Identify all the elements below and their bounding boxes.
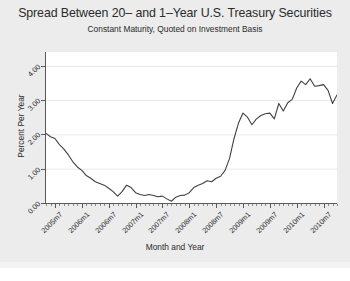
x-tick-minor (221, 204, 222, 206)
x-tick (109, 204, 110, 208)
x-tick-minor (77, 204, 78, 206)
x-tick-minor (252, 204, 253, 206)
x-tick-minor (198, 204, 199, 206)
x-tick-minor (176, 204, 177, 206)
y-tick (41, 169, 46, 170)
figure-shadow (0, 262, 350, 268)
y-axis-line (45, 52, 46, 204)
x-tick-minor (131, 204, 132, 206)
x-tick-minor (194, 204, 195, 206)
x-tick (324, 204, 325, 208)
x-tick-minor (167, 204, 168, 206)
x-tick-minor (59, 204, 60, 206)
x-tick (162, 204, 163, 208)
x-tick-minor (51, 204, 52, 206)
x-tick (55, 204, 56, 208)
x-tick-minor (171, 204, 172, 206)
x-tick-minor (68, 204, 69, 206)
x-tick-minor (234, 204, 235, 206)
x-tick-minor (225, 204, 226, 206)
x-tick-minor (328, 204, 329, 206)
x-tick-minor (230, 204, 231, 206)
data-line (46, 79, 337, 202)
x-tick-minor (46, 204, 47, 206)
x-tick (189, 204, 190, 208)
x-tick-minor (288, 204, 289, 206)
x-tick-minor (265, 204, 266, 206)
x-tick-minor (212, 204, 213, 206)
x-tick-minor (337, 204, 338, 206)
x-tick (136, 204, 137, 208)
x-tick-minor (149, 204, 150, 206)
y-tick-label: 0.00 (8, 199, 42, 233)
x-tick-minor (64, 204, 65, 206)
x-tick-minor (283, 204, 284, 206)
x-tick (216, 204, 217, 208)
x-tick-minor (158, 204, 159, 206)
x-tick (270, 204, 271, 208)
x-tick-minor (315, 204, 316, 206)
x-axis-title: Month and Year (0, 242, 350, 252)
plot-area (46, 52, 337, 203)
x-tick-minor (310, 204, 311, 206)
x-tick-minor (248, 204, 249, 206)
x-tick-minor (301, 204, 302, 206)
x-tick-minor (140, 204, 141, 206)
x-tick-minor (95, 204, 96, 206)
x-tick-minor (319, 204, 320, 206)
x-tick-minor (127, 204, 128, 206)
y-tick (41, 134, 46, 135)
x-tick-minor (91, 204, 92, 206)
x-tick-minor (180, 204, 181, 206)
x-tick-minor (100, 204, 101, 206)
x-tick-minor (73, 204, 74, 206)
x-tick (297, 204, 298, 208)
x-tick-minor (292, 204, 293, 206)
chart-title: Spread Between 20– and 1–Year U.S. Treas… (0, 6, 350, 20)
x-tick-minor (122, 204, 123, 206)
x-tick-minor (306, 204, 307, 206)
chart-figure: Spread Between 20– and 1–Year U.S. Treas… (0, 0, 350, 262)
chart-svg (46, 52, 337, 203)
x-tick-minor (145, 204, 146, 206)
x-tick-minor (104, 204, 105, 206)
x-tick-minor (256, 204, 257, 206)
x-tick-minor (333, 204, 334, 206)
x-tick-minor (274, 204, 275, 206)
x-tick-minor (207, 204, 208, 206)
x-tick-minor (203, 204, 204, 206)
x-tick (243, 204, 244, 208)
x-tick-minor (261, 204, 262, 206)
x-tick-minor (86, 204, 87, 206)
y-tick (41, 66, 46, 67)
x-tick (82, 204, 83, 208)
x-tick-minor (185, 204, 186, 206)
x-tick-minor (113, 204, 114, 206)
x-tick-minor (118, 204, 119, 206)
y-tick (41, 100, 46, 101)
gridlines (46, 66, 337, 203)
y-axis-title: Percent Per Year (16, 81, 26, 171)
x-tick-minor (153, 204, 154, 206)
x-axis-line (45, 203, 337, 204)
x-tick-minor (279, 204, 280, 206)
x-tick-minor (239, 204, 240, 206)
chart-subtitle: Constant Maturity, Quoted on Investment … (0, 24, 350, 34)
